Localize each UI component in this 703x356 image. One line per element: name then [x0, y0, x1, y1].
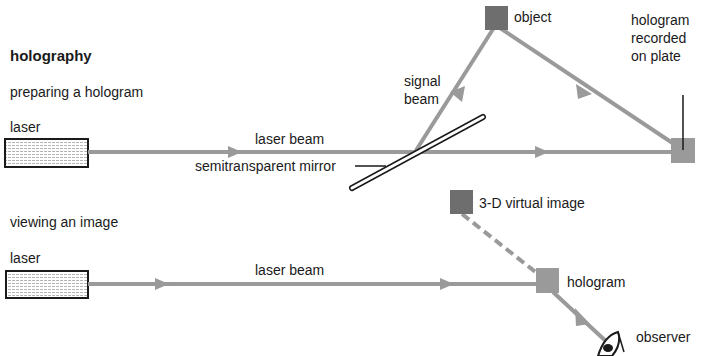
object-label: object — [514, 9, 551, 25]
arrow-icon — [228, 146, 242, 158]
laser-beam-label-top: laser beam — [255, 131, 324, 147]
signal-beam-label: signal beam — [404, 72, 441, 108]
laser-beam-label-bottom: laser beam — [255, 262, 324, 278]
arrow-icon — [575, 308, 590, 326]
arrow-icon — [535, 146, 549, 158]
reference-beam — [88, 146, 672, 158]
laser-device-top — [5, 139, 88, 167]
diagram-title: holography — [10, 48, 92, 64]
viewing-beam — [88, 278, 537, 290]
virtual-image-label: 3-D virtual image — [479, 195, 585, 211]
virtual-image-dashed-line — [462, 214, 538, 274]
laser-label-top: laser — [10, 119, 40, 135]
viewing-heading: viewing an image — [10, 214, 118, 230]
hologram-label: hologram — [567, 274, 625, 290]
holography-diagram — [0, 0, 703, 356]
laser-device-bottom — [6, 271, 88, 298]
preparing-heading: preparing a hologram — [10, 84, 143, 100]
arrow-icon — [440, 278, 454, 290]
plate-label: hologram recorded on plate — [631, 11, 689, 65]
mirror-label: semitransparent mirror — [195, 158, 336, 174]
laser-label-bottom: laser — [10, 250, 40, 266]
virtual-image-square — [450, 190, 473, 214]
observer-ray — [553, 292, 610, 345]
object-square — [485, 6, 508, 30]
hologram-square — [536, 268, 559, 293]
arrow-icon — [155, 278, 169, 290]
observer-label: observer — [636, 329, 690, 345]
